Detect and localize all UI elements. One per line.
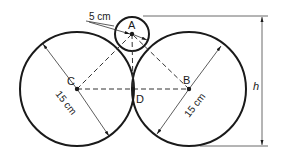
height-label: h: [253, 80, 259, 92]
label-B: B: [183, 74, 190, 86]
height-dimension: [143, 16, 268, 146]
label-C: C: [67, 75, 75, 87]
point-D-dot: [131, 87, 135, 91]
label-D: D: [136, 93, 144, 105]
label-A: A: [128, 19, 136, 31]
point-B-dot: [187, 87, 191, 91]
small-radius-label: 5 cm: [89, 11, 111, 22]
point-A-dot: [130, 32, 134, 36]
tangent-circles-diagram: A B C D 5 cm 15 cm 15 cm h: [0, 0, 281, 160]
left-radius-label: 15 cm: [53, 88, 78, 116]
point-C-dot: [75, 87, 79, 91]
right-radius-label: 15 cm: [182, 91, 207, 119]
